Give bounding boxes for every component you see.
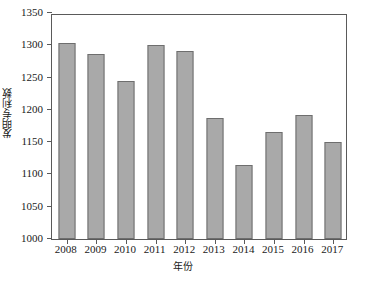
bar-slot xyxy=(141,15,171,239)
x-axis-tick-label: 2017 xyxy=(317,243,347,256)
bar[interactable] xyxy=(236,165,253,239)
bar[interactable] xyxy=(295,115,312,239)
x-axis-tick-label: 2012 xyxy=(169,243,199,256)
y-axis-tick: 1250 xyxy=(47,77,52,78)
bar-slot xyxy=(230,15,260,239)
y-axis-tick-label: 1000 xyxy=(21,232,43,245)
bar-slot xyxy=(111,15,141,239)
x-axis-tick-label: 2015 xyxy=(258,243,288,256)
x-axis-tick-label: 2010 xyxy=(110,243,140,256)
y-axis-tick: 1300 xyxy=(47,44,52,45)
y-axis-tick-label: 1300 xyxy=(21,38,43,51)
y-axis-tick-label: 1350 xyxy=(21,6,43,19)
y-axis-tick-label: 1050 xyxy=(21,200,43,213)
y-axis-tick: 1100 xyxy=(47,173,52,174)
y-axis-tick-label: 1100 xyxy=(21,167,43,180)
bar[interactable] xyxy=(206,118,223,239)
x-axis-tick-label: 2016 xyxy=(288,243,318,256)
bar[interactable] xyxy=(147,45,164,239)
bar-slot xyxy=(259,15,289,239)
x-axis-tick-label: 2009 xyxy=(81,243,111,256)
bar-slot xyxy=(170,15,200,239)
x-axis-title: 年份 xyxy=(0,261,365,273)
bar[interactable] xyxy=(265,132,282,239)
y-axis-title: 发明专利数 xyxy=(2,88,20,138)
bar[interactable] xyxy=(117,81,134,239)
y-axis-tick-label: 1150 xyxy=(21,135,43,148)
bar[interactable] xyxy=(88,54,105,239)
y-axis-tick: 1200 xyxy=(47,109,52,110)
y-axis-tick: 1050 xyxy=(47,206,52,207)
bar-slot xyxy=(200,15,230,239)
y-axis-tick-label: 1200 xyxy=(21,103,43,116)
bar-slot xyxy=(52,15,82,239)
y-axis-tick: 1000 xyxy=(47,238,52,239)
bar-chart: 发明专利数 10001050110011501200125013001350 年… xyxy=(0,0,365,283)
bar-slot xyxy=(289,15,319,239)
bar[interactable] xyxy=(58,43,75,239)
x-axis-tick-label: 2014 xyxy=(229,243,259,256)
x-axis-tick-label: 2013 xyxy=(199,243,229,256)
bar-slot xyxy=(318,15,348,239)
bar[interactable] xyxy=(325,142,342,240)
plot-frame: 10001050110011501200125013001350 xyxy=(51,14,347,240)
bar[interactable] xyxy=(177,51,194,239)
y-axis-tick-label: 1250 xyxy=(21,71,43,84)
plot-area xyxy=(52,15,346,239)
x-axis-tick-label: 2008 xyxy=(51,243,81,256)
y-axis-tick: 1350 xyxy=(47,12,52,13)
x-axis-tick-label: 2011 xyxy=(140,243,170,256)
bar-slot xyxy=(82,15,112,239)
y-axis-tick: 1150 xyxy=(47,141,52,142)
